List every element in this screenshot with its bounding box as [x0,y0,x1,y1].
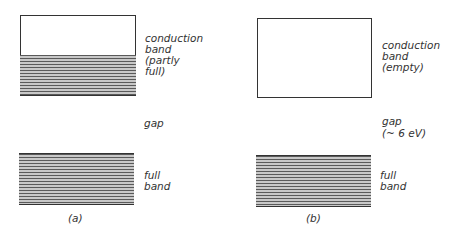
caption-a: (a) [68,212,83,224]
label-line: gap [382,116,426,127]
label-line: band [144,181,170,192]
conduction-band-filled-part-a [20,55,136,96]
gap-label-b: gap (~ 6 eV) [382,116,426,139]
label-line: band [380,181,406,192]
gap-value: (~ 6 eV) [382,128,426,139]
full-band-label-a: full band [144,170,170,192]
label-line: full) [145,66,203,77]
full-band-label-b: full band [380,170,406,192]
conduction-band-empty-b [257,18,372,98]
conduction-band-label-a: conduction band (partly full) [145,33,203,77]
conduction-band-empty-part-a [20,15,136,56]
caption-b: (b) [306,212,321,224]
full-band-b [256,155,371,207]
label-line: (empty) [382,62,440,73]
full-band-a [19,153,134,205]
conduction-band-label-b: conduction band (empty) [382,40,440,73]
gap-label-a: gap [144,118,164,129]
